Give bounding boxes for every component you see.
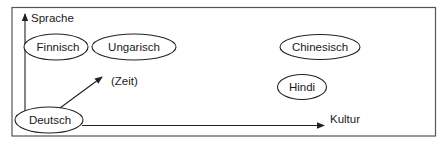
diagonal-axis-label: (Zeit) — [111, 75, 138, 87]
language-culture-diagram: Sprache Kultur (Zeit) Ungarisch Finnisch… — [0, 0, 448, 145]
vertical-axis-label: Sprache — [31, 12, 74, 24]
node-deutsch: Deutsch — [15, 107, 83, 133]
node-chinesisch-label: Chinesisch — [292, 41, 348, 53]
node-ungarisch: Ungarisch — [92, 34, 176, 60]
node-chinesisch: Chinesisch — [280, 35, 360, 60]
node-hindi: Hindi — [278, 75, 327, 100]
node-finnisch-label: Finnisch — [37, 41, 80, 53]
node-hindi-label: Hindi — [289, 81, 315, 93]
horizontal-axis-label: Kultur — [330, 113, 360, 125]
diagonal-axis-zeit — [60, 77, 102, 108]
node-finnisch: Finnisch — [24, 34, 88, 60]
node-deutsch-label: Deutsch — [29, 114, 71, 126]
node-ungarisch-label: Ungarisch — [108, 41, 160, 53]
